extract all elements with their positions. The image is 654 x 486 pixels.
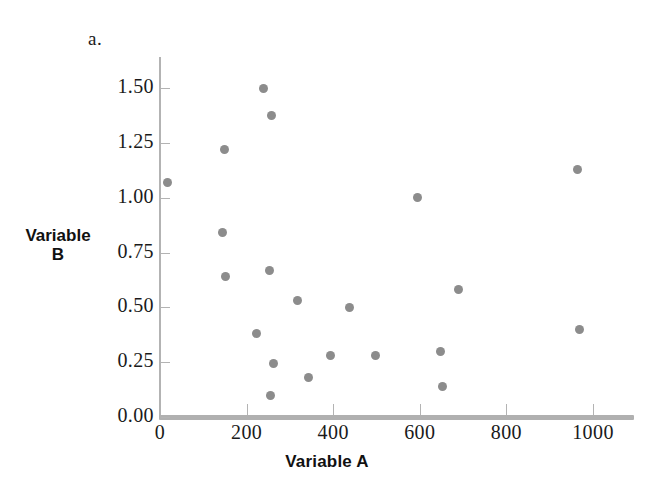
y-tick-label-1.00: 1.00 — [84, 185, 154, 208]
data-point — [259, 84, 268, 93]
y-axis-title-line-2: B — [6, 245, 110, 264]
x-tick-800 — [506, 404, 507, 415]
x-tick-400 — [333, 404, 334, 415]
y-tick-label-0.50: 0.50 — [84, 294, 154, 317]
x-tick-label-400: 400 — [293, 421, 373, 444]
data-point — [371, 351, 380, 360]
y-tick-0.00 — [161, 417, 170, 418]
data-point — [413, 193, 422, 202]
y-tick-1.25 — [161, 143, 170, 144]
scatter-plot-figure: a. 0.000.250.500.751.001.251.50 02004006… — [0, 0, 654, 486]
x-tick-0 — [160, 404, 161, 415]
data-point — [266, 391, 275, 400]
data-point — [304, 373, 313, 382]
y-tick-0.50 — [161, 307, 170, 308]
y-tick-1.00 — [161, 198, 170, 199]
x-tick-label-1000: 1000 — [553, 421, 633, 444]
data-point — [163, 178, 172, 187]
x-tick-label-800: 800 — [466, 421, 546, 444]
y-tick-label-0.25: 0.25 — [84, 349, 154, 372]
x-tick-200 — [247, 404, 248, 415]
x-axis-line — [159, 415, 634, 420]
data-point — [267, 111, 276, 120]
data-point — [573, 165, 582, 174]
data-point — [265, 266, 274, 275]
y-axis-title: Variable B — [6, 226, 110, 264]
y-tick-label-1.50: 1.50 — [84, 75, 154, 98]
data-point — [436, 347, 445, 356]
data-point — [269, 359, 278, 368]
x-tick-1000 — [593, 404, 594, 415]
data-point — [252, 329, 261, 338]
data-point — [221, 272, 230, 281]
x-tick-label-200: 200 — [207, 421, 287, 444]
data-point — [220, 145, 229, 154]
data-point — [438, 382, 447, 391]
x-axis-title: Variable A — [0, 452, 654, 472]
y-tick-0.75 — [161, 253, 170, 254]
data-point — [575, 325, 584, 334]
y-tick-1.50 — [161, 88, 170, 89]
x-tick-label-600: 600 — [380, 421, 460, 444]
data-point — [345, 303, 354, 312]
x-tick-label-0: 0 — [120, 421, 200, 444]
y-axis-title-line-1: Variable — [6, 226, 110, 245]
data-point — [454, 285, 463, 294]
x-tick-600 — [420, 404, 421, 415]
y-axis-line — [159, 57, 161, 418]
data-point — [293, 296, 302, 305]
data-point — [326, 351, 335, 360]
data-point — [218, 228, 227, 237]
y-tick-label-1.25: 1.25 — [84, 130, 154, 153]
y-tick-0.25 — [161, 362, 170, 363]
